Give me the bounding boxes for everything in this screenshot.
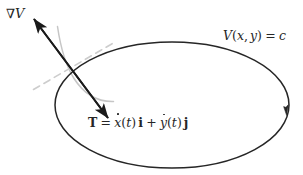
x-arg-close-paren: )	[131, 115, 136, 130]
level-curve-ellipse	[55, 42, 289, 168]
level-curve-var-x: x	[237, 28, 244, 43]
tangent-vector-arrow	[34, 19, 108, 118]
y-dot-base: y	[160, 115, 167, 130]
j-unit-vector: j	[184, 115, 189, 130]
level-curve-comma: ,	[244, 28, 248, 43]
tangent-equals: =	[101, 115, 111, 130]
tangent-vector-symbol: T	[88, 115, 97, 130]
figure-canvas: ∇V V(x,y)=c T=x(t)i+y(t)j	[0, 0, 303, 175]
level-curve-function-name: V	[223, 28, 232, 43]
i-unit-vector: i	[138, 115, 143, 130]
neighboring-level-curve	[58, 27, 114, 102]
tangent-vector-label: T=x(t)i+y(t)j	[88, 117, 188, 130]
x-dot-variable: x	[114, 117, 121, 130]
y-dot-variable: y	[160, 117, 167, 130]
diagram-svg	[0, 0, 303, 175]
level-curve-label: V(x,y)=c	[223, 30, 286, 43]
level-curve-close-paren: )	[257, 28, 262, 43]
level-curve-var-y: y	[250, 28, 257, 43]
gradient-label: ∇V	[6, 7, 24, 20]
level-curve-equals: =	[265, 28, 275, 43]
gradient-field-symbol: V	[15, 6, 24, 21]
tangent-plus: +	[146, 115, 156, 130]
level-curve-constant: c	[279, 28, 286, 43]
x-dot-base: x	[114, 115, 121, 130]
nabla-icon: ∇	[6, 6, 15, 21]
y-arg-close-paren: )	[177, 115, 182, 130]
x-overdot-icon	[117, 113, 119, 115]
tangent-line-dashed	[34, 44, 113, 90]
